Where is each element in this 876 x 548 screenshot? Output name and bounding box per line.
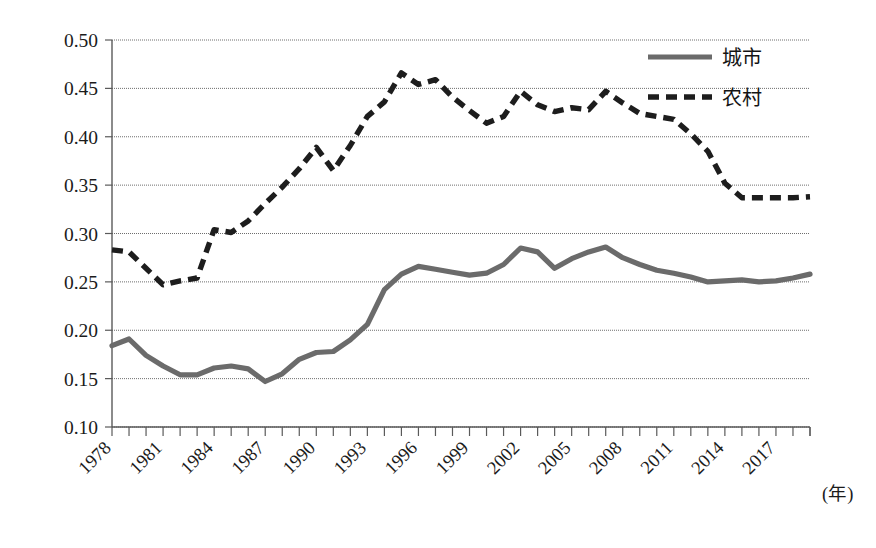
legend-label-urban: 城市	[722, 47, 762, 69]
x-tick-label: 1987	[228, 438, 268, 478]
x-tick-label: 2011	[637, 438, 677, 478]
chart-canvas: 0.500.450.400.350.300.250.200.150.10 197…	[0, 0, 876, 548]
x-tick-label: 2014	[687, 438, 727, 478]
y-tick-label: 0.30	[64, 224, 98, 245]
x-tick-label: 1990	[279, 438, 319, 478]
y-tick-label: 0.10	[64, 417, 98, 438]
data-series-group	[112, 73, 810, 382]
x-tick-label: 2008	[585, 438, 625, 478]
legend-label-rural: 农村	[722, 87, 762, 109]
x-tick-label: 1993	[330, 438, 370, 478]
x-tick-label: 1984	[177, 438, 217, 478]
y-tick-label: 0.25	[64, 272, 98, 293]
y-tick-label: 0.20	[64, 320, 98, 341]
x-tick-label: 1981	[126, 438, 166, 478]
x-axis-tick-labels: 1978198119841987199019931996199920022005…	[75, 438, 779, 478]
x-tick-label: 2017	[739, 438, 779, 478]
y-tick-label: 0.45	[64, 78, 98, 99]
series-line-rural	[112, 73, 810, 285]
y-tick-label: 0.50	[64, 30, 98, 51]
chart-legend: 城市农村	[648, 47, 762, 109]
chart-figure: 0.500.450.400.350.300.250.200.150.10 197…	[0, 0, 876, 548]
x-axis-unit-text: (年)	[822, 484, 853, 505]
x-tick-label: 1978	[75, 438, 115, 478]
x-tick-label: 1999	[432, 438, 472, 478]
x-tick-label: 2005	[534, 438, 574, 478]
x-tick-label: 1996	[381, 438, 421, 478]
y-tick-label: 0.15	[64, 369, 98, 390]
y-tick-label: 0.40	[64, 127, 98, 148]
series-line-urban	[112, 247, 810, 382]
x-tick-label: 2002	[483, 438, 523, 478]
x-axis-unit-label: (年)	[822, 484, 853, 505]
y-tick-label: 0.35	[64, 175, 98, 196]
y-axis-tick-labels: 0.500.450.400.350.300.250.200.150.10	[64, 30, 98, 438]
